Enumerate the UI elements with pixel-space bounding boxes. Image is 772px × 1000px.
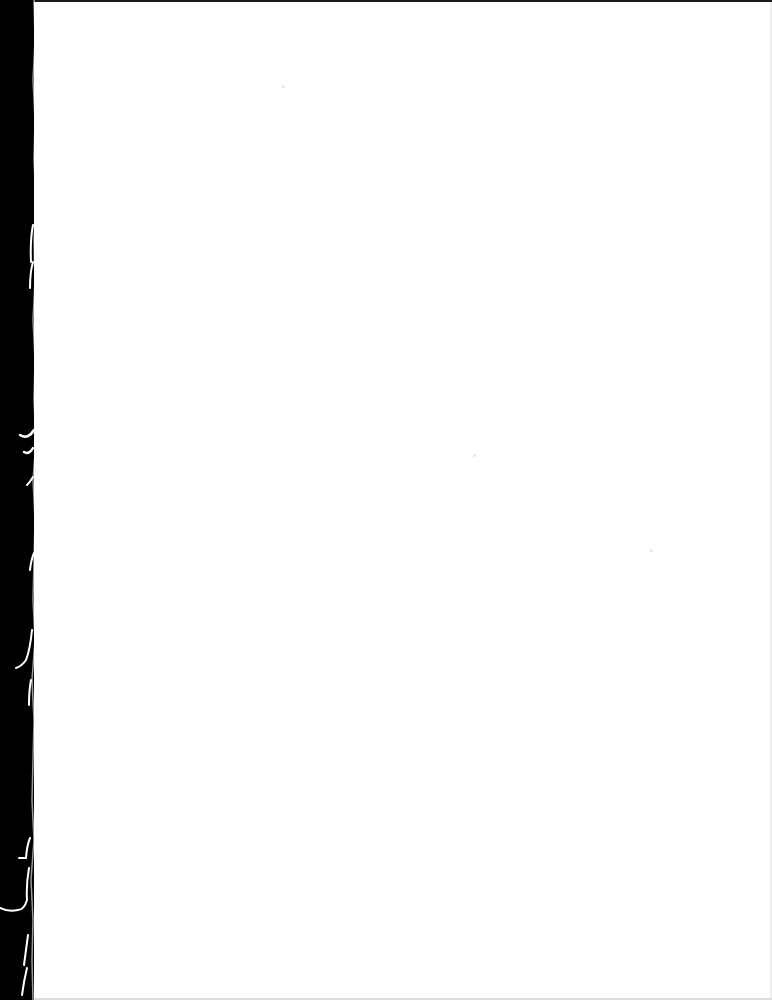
torn-paper-edge (0, 0, 60, 1000)
scanned-document (0, 0, 772, 1000)
dust-speck (650, 549, 653, 552)
dust-speck (473, 454, 476, 457)
blank-page (34, 2, 772, 998)
dust-speck (282, 85, 285, 88)
